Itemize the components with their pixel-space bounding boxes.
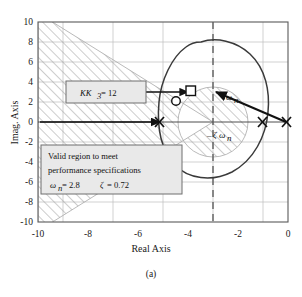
y-tick-1: 8 <box>28 37 33 47</box>
zeta-wn-omega: ω <box>219 130 225 140</box>
figure-caption: (a) <box>0 269 302 279</box>
region-wn-value: = 2.8 <box>62 180 80 190</box>
x-tick-labels: -10 -8 -6 -4 -2 0 <box>32 229 291 239</box>
y-tick-6: -2 <box>25 137 33 147</box>
zeta-wn-prefix: – <box>206 130 212 140</box>
x-tick-4: -2 <box>234 229 242 239</box>
y-tick-2: 6 <box>28 57 33 67</box>
y-tick-labels: 10 8 6 4 2 0 -2 -4 -6 -8 -10 <box>20 17 33 227</box>
y-tick-5: 0 <box>28 117 33 127</box>
gain-label-box[interactable]: KK 3 = 12 <box>66 81 146 103</box>
y-tick-9: -8 <box>25 197 33 207</box>
y-tick-10: -10 <box>20 217 33 227</box>
wn-label-subscript: n <box>234 95 239 105</box>
gain-label-kk: KK <box>79 88 93 98</box>
x-tick-3: -4 <box>184 229 192 239</box>
zeta-wn-subscript: n <box>227 133 232 143</box>
valid-region-label-box[interactable]: Valid region to meet performance specifi… <box>41 145 182 194</box>
region-zeta-symbol: ζ <box>100 180 104 190</box>
figure-root-locus: 10 8 6 4 2 0 -2 -4 -6 -8 -10 -10 -8 -6 -… <box>0 0 302 297</box>
wn-label-symbol: ω <box>226 92 232 102</box>
region-line-1: Valid region to meet <box>48 151 119 161</box>
y-tick-4: 2 <box>28 97 33 107</box>
region-wn-symbol: ω <box>50 180 56 190</box>
x-tick-2: -6 <box>134 229 142 239</box>
gain-label-value: = 12 <box>101 88 117 98</box>
x-axis-label: Real Axis <box>0 243 302 254</box>
region-line-2: performance specifications <box>48 165 141 175</box>
y-tick-0: 10 <box>24 17 34 27</box>
y-tick-7: -4 <box>25 157 33 167</box>
x-tick-5: 0 <box>286 229 291 239</box>
x-tick-0: -10 <box>32 229 45 239</box>
y-tick-8: -6 <box>25 177 33 187</box>
region-zeta-value: = 0.72 <box>107 180 129 190</box>
design-point-square <box>186 86 196 96</box>
zero-upper <box>172 97 181 106</box>
y-tick-3: 4 <box>28 77 33 87</box>
y-axis-label: Imag. Axis <box>9 78 20 168</box>
x-tick-1: -8 <box>84 229 92 239</box>
